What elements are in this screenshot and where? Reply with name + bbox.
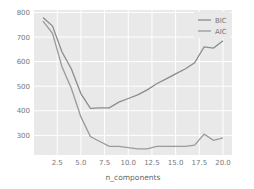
x-tick-label: 20.0 <box>215 159 231 167</box>
legend: BICAIC <box>194 12 230 38</box>
line-chart: 300400500600700800 2.55.07.510.012.515.0… <box>0 0 254 189</box>
x-tick-label: 15.0 <box>168 159 184 167</box>
y-tick-label: 300 <box>17 132 30 140</box>
legend-label: AIC <box>215 28 227 36</box>
y-tick-label: 500 <box>17 83 30 91</box>
y-tick-label: 400 <box>17 107 30 115</box>
y-tick-label: 700 <box>17 34 30 42</box>
x-axis-label: n_components <box>106 173 161 182</box>
legend-label: BIC <box>215 17 227 25</box>
y-tick-label: 600 <box>17 58 30 66</box>
x-tick-label: 12.5 <box>144 159 160 167</box>
x-tick-label: 5.0 <box>75 159 86 167</box>
x-axis-ticks: 2.55.07.510.012.515.017.520.0 <box>52 159 231 167</box>
y-axis-ticks: 300400500600700800 <box>17 9 30 140</box>
x-tick-label: 10.0 <box>120 159 136 167</box>
x-tick-label: 2.5 <box>52 159 63 167</box>
x-tick-label: 7.5 <box>99 159 110 167</box>
x-tick-label: 17.5 <box>192 159 208 167</box>
y-tick-label: 800 <box>17 9 30 17</box>
